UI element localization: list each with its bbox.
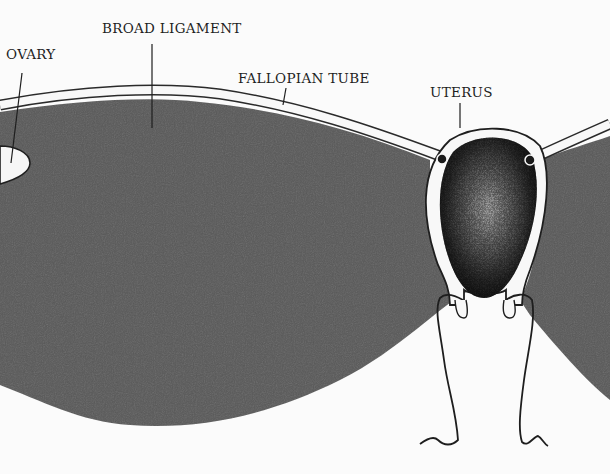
tube-opening-right [525, 155, 535, 165]
cervix-outline [420, 295, 548, 446]
tube-opening-left [437, 154, 447, 164]
label-ovary: OVARY [6, 46, 56, 62]
label-fallopian-tube: FALLOPIAN TUBE [238, 70, 370, 86]
broad-ligament-diagram: OVARY BROAD LIGAMENT FALLOPIAN TUBE UTER… [0, 0, 610, 474]
label-broad-ligament: BROAD LIGAMENT [102, 20, 242, 36]
label-uterus: UTERUS [430, 84, 493, 100]
